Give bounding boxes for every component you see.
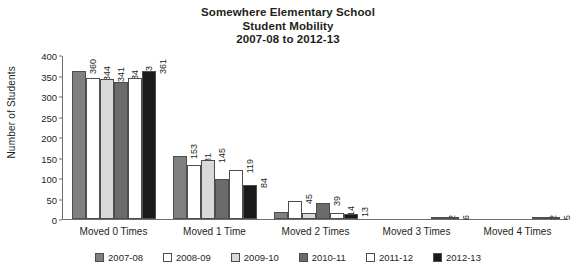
- bar-slot: 145: [201, 160, 215, 219]
- bar[interactable]: 5: [546, 217, 560, 219]
- bar[interactable]: 344: [86, 78, 100, 219]
- x-axis-tick-label: Moved 4 Times: [484, 226, 552, 237]
- x-axis-tick-label: Moved 1 Time: [183, 226, 246, 237]
- legend-item[interactable]: 2011-12: [366, 252, 413, 263]
- x-axis-line: [62, 219, 568, 220]
- y-axis-tick-mark: [59, 179, 62, 180]
- legend-swatch-icon: [366, 253, 375, 262]
- bar-slot: 6: [445, 217, 459, 219]
- x-axis-tick-label: Moved 0 Times: [80, 226, 148, 237]
- x-axis-tick-label: Moved 2 Times: [282, 226, 350, 237]
- bar-slot: 341: [100, 79, 114, 219]
- bar-slot: 13: [344, 214, 358, 219]
- title-line-1: Somewhere Elementary School: [0, 6, 576, 20]
- bar-group: 360344341334343361Moved 0 Times: [63, 56, 164, 219]
- bar-value-label: 360: [86, 59, 100, 74]
- legend-label: 2009-10: [244, 252, 279, 263]
- legend-label: 2008-09: [176, 252, 211, 263]
- bar[interactable]: 153: [173, 156, 187, 219]
- bar-slot: 131: [187, 165, 201, 219]
- bar[interactable]: 341: [100, 79, 114, 219]
- legend-item[interactable]: 2010-11: [299, 252, 346, 263]
- bar-slot: 16: [274, 212, 288, 219]
- legend-item[interactable]: 2009-10: [231, 252, 279, 263]
- bar[interactable]: 145: [201, 160, 215, 219]
- bar-group: 1531311459811984Moved 1 Time: [164, 56, 265, 219]
- bar-slot: 98: [215, 179, 229, 219]
- title-line-2: Student Mobility: [0, 20, 576, 34]
- bar[interactable]: 2: [431, 217, 445, 219]
- bar[interactable]: 45: [288, 201, 302, 219]
- legend-swatch-icon: [95, 253, 104, 262]
- y-axis-tick-mark: [59, 97, 62, 98]
- title-line-3: 2007-08 to 2012-13: [0, 33, 576, 47]
- bar-group: 25Moved 4 Times: [467, 56, 568, 219]
- bar-value-label: 39: [330, 196, 344, 206]
- bar-group: 164515391413Moved 2 Times: [265, 56, 366, 219]
- bar[interactable]: 131: [187, 165, 201, 219]
- bar-slot: 119: [229, 170, 243, 219]
- bar-value-label: 5: [560, 215, 574, 220]
- bar-value-label: 45: [302, 194, 316, 204]
- y-axis-tick-mark: [59, 158, 62, 159]
- y-axis-tick-mark: [59, 117, 62, 118]
- bar-value-label: 145: [215, 148, 229, 163]
- bar[interactable]: 2: [532, 217, 546, 219]
- bar[interactable]: 84: [243, 185, 257, 219]
- bar-value-label: 341: [114, 67, 128, 82]
- bar[interactable]: 6: [445, 217, 459, 219]
- y-axis-tick-mark: [59, 220, 62, 221]
- y-axis-label: Number of Students: [6, 66, 17, 159]
- bar[interactable]: 361: [142, 71, 156, 219]
- bar-slot: 344: [86, 78, 100, 219]
- bar[interactable]: 360: [72, 71, 86, 219]
- bar[interactable]: 334: [114, 82, 128, 219]
- x-axis-tick-label: Moved 3 Times: [383, 226, 451, 237]
- bar[interactable]: 13: [344, 214, 358, 219]
- bar-group: 26Moved 3 Times: [366, 56, 467, 219]
- legend-item[interactable]: 2008-09: [163, 252, 211, 263]
- bar[interactable]: 16: [274, 212, 288, 219]
- chart-title: Somewhere Elementary School Student Mobi…: [0, 6, 576, 47]
- legend-swatch-icon: [299, 253, 308, 262]
- bar-slot: 343: [128, 78, 142, 219]
- legend-swatch-icon: [433, 253, 442, 262]
- chart-container: Somewhere Elementary School Student Mobi…: [0, 0, 576, 276]
- bar-slot: 14: [330, 213, 344, 219]
- y-axis-tick-mark: [59, 76, 62, 77]
- bar[interactable]: 98: [215, 179, 229, 219]
- legend-label: 2011-12: [379, 252, 413, 263]
- bar-slot: 15: [302, 213, 316, 219]
- bar-slot: 334: [114, 82, 128, 219]
- bar[interactable]: 39: [316, 203, 330, 219]
- bar-value-label: 119: [243, 159, 257, 173]
- legend-label: 2007-08: [108, 252, 143, 263]
- bar[interactable]: 14: [330, 213, 344, 219]
- y-axis-tick-mark: [59, 138, 62, 139]
- bar-slot: 361: [142, 71, 156, 219]
- legend-label: 2010-11: [312, 252, 346, 263]
- bar-slot: 39: [316, 203, 330, 219]
- bar-value-label: 153: [187, 144, 201, 159]
- bar[interactable]: 119: [229, 170, 243, 219]
- bar[interactable]: 15: [302, 213, 316, 219]
- bar-slot: 360: [72, 71, 86, 219]
- bar-slot: 2: [532, 217, 546, 219]
- bar-slot: 2: [431, 217, 445, 219]
- legend-swatch-icon: [231, 253, 240, 262]
- legend-label: 2012-13: [446, 252, 481, 263]
- bar-groups: 360344341334343361Moved 0 Times153131145…: [63, 56, 568, 219]
- bar-slot: 84: [243, 185, 257, 219]
- bar-slot: 153: [173, 156, 187, 219]
- plot-area: 050100150200250300350400 360344341334343…: [62, 56, 568, 220]
- chart-legend: 2007-082008-092009-102010-112011-122012-…: [0, 252, 576, 263]
- y-axis-tick-mark: [59, 56, 62, 57]
- y-axis-tick-mark: [59, 199, 62, 200]
- bar-slot: 45: [288, 201, 302, 219]
- legend-item[interactable]: 2012-13: [433, 252, 481, 263]
- legend-item[interactable]: 2007-08: [95, 252, 143, 263]
- legend-swatch-icon: [163, 253, 172, 262]
- bar[interactable]: 343: [128, 78, 142, 219]
- bar-slot: 5: [546, 217, 560, 219]
